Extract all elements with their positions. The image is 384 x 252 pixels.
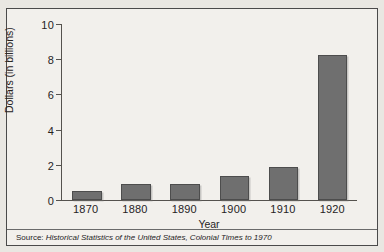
x-axis-tick-label: 1890 [160, 203, 209, 215]
bar-1890[interactable] [170, 184, 199, 200]
bar-slot [112, 25, 161, 200]
x-axis-tick-label: 1870 [61, 203, 110, 215]
x-axis-tick-labels: 187018801890190019101920 [61, 203, 357, 215]
x-axis-tick-label: 1910 [258, 203, 307, 215]
y-axis-tick-label: 2 [48, 160, 54, 172]
y-axis-tick [56, 200, 62, 201]
bar-1920[interactable] [318, 55, 347, 200]
bar-1900[interactable] [220, 176, 249, 200]
x-axis-tick-label: 1880 [110, 203, 159, 215]
y-axis-tick-label: 0 [48, 195, 54, 207]
footer-divider [7, 229, 377, 230]
y-axis-tick [56, 94, 62, 95]
y-axis-tick-label: 6 [48, 89, 54, 101]
y-axis-tick-label: 10 [41, 19, 54, 31]
source-title: Historical Statistics of the United Stat… [46, 233, 272, 242]
x-axis-tick-label: 1920 [308, 203, 357, 215]
y-axis-title: Dollars (in billions) [3, 27, 15, 113]
bar-slot [161, 25, 210, 200]
source-note: Source: Historical Statistics of the Uni… [16, 233, 272, 242]
bar-slot [63, 25, 112, 200]
chart-figure: Dollars (in billions) 0246810 1870188018… [6, 8, 378, 246]
y-axis-tick [56, 24, 62, 25]
bar-slot [259, 25, 308, 200]
y-axis-tick [56, 165, 62, 166]
y-axis-tick-label: 4 [48, 125, 54, 137]
bar-1880[interactable] [121, 184, 150, 200]
bar-1870[interactable] [72, 191, 101, 200]
bar-slot [308, 25, 357, 200]
plot-area: 0246810 [61, 25, 357, 201]
bar-series [63, 25, 358, 200]
bar-1910[interactable] [269, 167, 298, 199]
y-axis-tick-label: 8 [48, 54, 54, 66]
y-axis-tick [56, 130, 62, 131]
y-axis-tick [56, 59, 62, 60]
bar-slot [210, 25, 259, 200]
x-axis-tick-label: 1900 [209, 203, 258, 215]
source-label: Source: [16, 233, 46, 242]
